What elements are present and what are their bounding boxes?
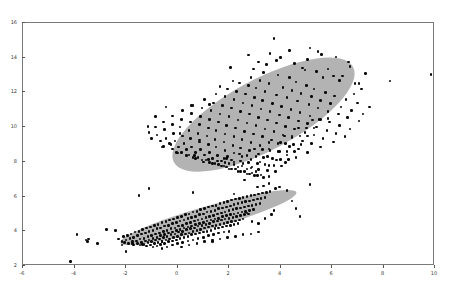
scatter-point [203,154,206,157]
scatter-point [141,228,144,231]
scatter-point [181,135,184,138]
scatter-point [145,245,148,248]
scatter-point [219,202,222,205]
scatter-point [220,160,223,163]
y-tick-label: 8 [5,158,17,164]
scatter-point [166,246,169,249]
scatter-point [154,126,157,129]
scatter-point [183,236,186,239]
scatter-point [196,210,199,213]
scatter-point [279,141,282,144]
scatter-point [189,121,192,124]
scatter-point [338,124,341,127]
scatter-point [264,217,267,220]
scatter-point [228,230,231,233]
scatter-point [150,137,153,140]
scatter-point [239,170,242,173]
scatter-point [315,126,318,129]
scatter-point [192,239,195,242]
scatter-point [171,115,174,118]
scatter-point [165,137,168,140]
scatter-point [205,216,208,219]
scatter-point [286,96,289,99]
scatter-point [144,232,147,235]
scatter-point [179,132,182,135]
scatter-point [319,99,322,102]
scatter-point [353,93,356,96]
x-tick-label: 8 [381,270,384,276]
scatter-point [315,70,318,73]
scatter-point [268,182,271,185]
scatter-point [345,98,348,101]
scatter-point [125,250,128,253]
scatter-point [198,213,201,216]
scatter-point [241,155,244,158]
scatter-point [207,234,210,237]
scatter-point [280,165,283,168]
x-tick-label: 2 [226,270,229,276]
scatter-point [176,242,179,245]
scatter-point [187,235,190,238]
scatter-point [243,130,246,133]
scatter-point [211,240,214,243]
scatter-point [322,137,325,140]
y-tick-label: 6 [5,193,17,199]
scatter-point [185,228,188,231]
scatter-point [185,148,188,151]
scatter-point [364,72,367,75]
scatter-point [335,132,338,135]
scatter-point [223,157,226,160]
scatter-point [171,240,174,243]
scatter-point [320,53,323,56]
scatter-point [217,227,220,230]
y-tick-label: 4 [5,227,17,233]
scatter-point [161,146,164,149]
scatter-point [250,158,253,161]
scatter-point [188,244,191,247]
scatter-point [127,242,130,245]
scatter-point [247,84,250,87]
scatter-point [332,141,335,144]
x-tick-label: 4 [278,270,281,276]
scatter-point [199,208,202,211]
y-tick-label: 14 [5,54,17,60]
scatter-point [250,194,253,197]
scatter-point [317,50,320,53]
scatter-point [189,137,192,140]
scatter-point [76,233,79,236]
x-tick-mark [331,265,332,268]
x-tick-label: -4 [71,270,76,276]
scatter-point [201,107,204,110]
scatter-point [319,146,322,149]
scatter-point [238,82,241,85]
scatter-point [251,220,254,223]
scatter-point [163,242,166,245]
scatter-point [220,212,223,215]
scatter-point [161,247,164,250]
x-tick-mark [383,265,384,268]
scatter-point [293,150,296,153]
scatter-point [187,240,190,243]
scatter-point [255,155,258,158]
scatter-point [216,220,219,223]
scatter-point [192,191,195,194]
scatter-point [203,207,206,210]
scatter-point [229,66,232,69]
x-tick-label: 6 [329,270,332,276]
scatter-point [356,102,359,105]
scatter-point [259,79,262,82]
y-tick-label: 16 [5,19,17,25]
scatter-point [253,194,256,197]
scatter-point [148,131,151,134]
scatter-point [221,207,224,210]
scatter-point [235,90,238,93]
scatter-point [159,227,162,230]
scatter-point [206,230,209,233]
scatter-point [328,121,331,124]
scatter-point [262,185,265,188]
y-tick-mark [22,265,25,266]
scatter-point [299,135,302,138]
scatter-point [147,235,150,238]
scatter-point [171,123,174,126]
scatter-point [165,106,168,109]
